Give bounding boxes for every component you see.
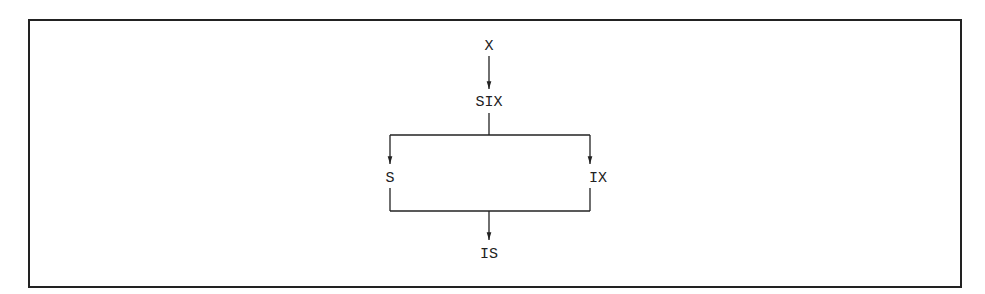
node-s: S — [385, 170, 394, 187]
node-x: X — [484, 38, 493, 55]
node-six: SIX — [475, 94, 502, 111]
node-ix: IX — [589, 170, 607, 187]
node-is: IS — [480, 246, 498, 263]
flow-diagram: X SIX S IX IS — [0, 0, 985, 294]
